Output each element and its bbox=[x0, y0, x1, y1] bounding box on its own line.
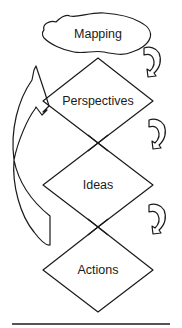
diagram-canvas: Mapping Perspectives Ideas Actions bbox=[0, 0, 182, 328]
ideas-label: Ideas bbox=[83, 178, 114, 192]
feedback-arrow-icon bbox=[13, 66, 50, 245]
curved-arrow-icon bbox=[149, 204, 165, 234]
perspectives-label: Perspectives bbox=[62, 94, 134, 108]
curved-arrow-icon bbox=[149, 119, 165, 149]
actions-label: Actions bbox=[78, 263, 119, 277]
bottom-rule bbox=[12, 323, 170, 325]
mapping-label: Mapping bbox=[74, 27, 122, 41]
diagram-shapes bbox=[0, 0, 182, 328]
curved-arrow-icon bbox=[144, 47, 160, 77]
